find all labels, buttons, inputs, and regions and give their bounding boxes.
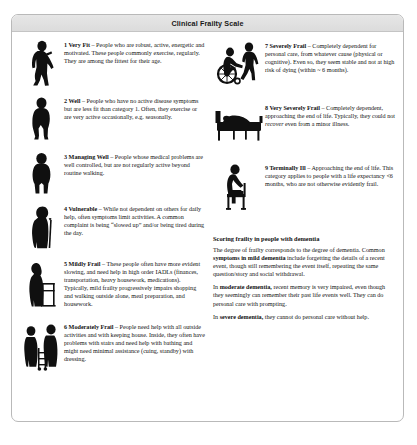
dementia-p2-bold: moderate dementia, [220, 284, 272, 290]
frailty-item-5-text: 5 Mildly Frail – These people often have… [64, 259, 206, 309]
frailty-item-8: 8 Very Severely Frail – Completely depen… [213, 103, 396, 143]
clinical-frailty-scale-card: Clinical Frailty Scale 1 Very Fit – Peop… [11, 14, 404, 422]
frailty-item-1-text: 1 Very Fit – People who are robust, acti… [64, 40, 206, 65]
frailty-item-4-text: 4 Vulnerable – While not dependent on ot… [64, 204, 206, 237]
right-column: 7 Severely Frail – Completely dependent … [210, 37, 403, 378]
person-with-cane-icon [20, 204, 64, 252]
dementia-p3-bold: severe dementia, [220, 314, 264, 320]
dementia-paragraph-moderate: In moderate dementia, recent memory is v… [213, 283, 394, 307]
person-with-walker-icon [20, 259, 64, 311]
frailty-item-5-label: 5 Mildly Frail [64, 261, 101, 267]
frailty-item-8-desc-after: even from a minor illness. [284, 121, 350, 127]
left-column: 1 Very Fit – People who are robust, acti… [12, 37, 210, 378]
standing-fit-person-icon [20, 40, 64, 88]
dementia-p3-part2: they cannot do personal care without hel… [263, 314, 369, 320]
frailty-item-6-text: 6 Moderately Frail – People need help wi… [64, 322, 206, 363]
frailty-item-7-text: 7 Severely Frail – Completely dependent … [265, 41, 396, 74]
standing-person-icon [20, 152, 64, 196]
frailty-item-3-text: 3 Managing Well – People whose medical p… [64, 152, 206, 177]
card-title-bar: Clinical Frailty Scale [12, 15, 403, 32]
page-title: Clinical Frailty Scale [171, 19, 243, 28]
frailty-item-2-text: 2 Well – People who have no active disea… [64, 96, 206, 121]
frailty-item-9-label: 9 Terminally Ill [265, 165, 306, 171]
scale-columns: 1 Very Fit – People who are robust, acti… [12, 32, 403, 378]
person-in-bed-icon [213, 103, 265, 143]
dementia-paragraph-mild: The degree of frailty corresponds to the… [213, 246, 394, 278]
dementia-p2-part1: In [213, 284, 220, 290]
dementia-heading-text: Scoring frailty in people with dementia [213, 235, 319, 242]
frailty-item-5-desc: These people often have more evident slo… [64, 261, 200, 307]
dementia-p3-part1: In [213, 314, 220, 320]
dementia-p1-part1: The degree of frailty corresponds to the… [213, 247, 385, 253]
walking-person-icon [20, 96, 64, 141]
frailty-item-6: 6 Moderately Frail – People need help wi… [20, 322, 206, 372]
dementia-scoring-section: Scoring frailty in people with dementia … [213, 235, 396, 321]
frailty-item-4-label: 4 Vulnerable [64, 206, 97, 212]
dementia-paragraph-severe: In severe dementia, they cannot do perso… [213, 313, 394, 321]
frailty-item-8-desc-emphasis: recover [265, 121, 284, 127]
frailty-item-8-label: 8 Very Severely Frail [265, 105, 320, 111]
frailty-item-9-text: 9 Terminally Ill – Approaching the end o… [265, 163, 396, 188]
frailty-item-2-label: 2 Well [64, 98, 80, 104]
frailty-item-4: 4 Vulnerable – While not dependent on ot… [20, 204, 206, 252]
frailty-item-1: 1 Very Fit – People who are robust, acti… [20, 40, 206, 88]
two-people-with-cart-icon [20, 322, 64, 372]
seated-person-icon [213, 163, 265, 211]
frailty-item-3-label: 3 Managing Well [64, 154, 109, 160]
dementia-section-heading: Scoring frailty in people with dementia [213, 235, 394, 243]
frailty-item-9: 9 Terminally Ill – Approaching the end o… [213, 163, 396, 211]
frailty-item-1-label: 1 Very Fit [64, 42, 90, 48]
frailty-item-6-label: 6 Moderately Frail [64, 324, 113, 330]
frailty-item-2: 2 Well – People who have no active disea… [20, 96, 206, 141]
wheelchair-with-attendant-icon [213, 41, 265, 86]
frailty-item-3: 3 Managing Well – People whose medical p… [20, 152, 206, 196]
frailty-item-8-text: 8 Very Severely Frail – Completely depen… [265, 103, 396, 128]
frailty-item-7-label: 7 Severely Frail [265, 43, 306, 49]
frailty-item-5: 5 Mildly Frail – These people often have… [20, 259, 206, 311]
frailty-item-7: 7 Severely Frail – Completely dependent … [213, 41, 396, 86]
dementia-p1-bold: symptoms in mild dementia [213, 255, 286, 261]
